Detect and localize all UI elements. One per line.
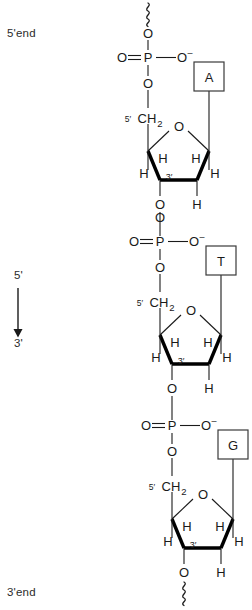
atom-o-5ester-2: O <box>155 210 165 225</box>
atom-ring-oxygen-1: O <box>174 119 184 134</box>
group-ch2-2: CH <box>150 295 169 310</box>
ring-bond-c4-o-3 <box>172 499 193 519</box>
atom-ring-oxygen-3: O <box>198 487 208 502</box>
atom-o-double-2: O <box>129 234 139 249</box>
group-ch2-1: CH <box>138 111 157 126</box>
atom-h-c2-upper-3: H <box>215 519 224 534</box>
dna-backbone-diagram: O O P O – O 5′ CH 2 O H H H H H 3′ O O O… <box>0 0 252 610</box>
base-box-adenine[interactable]: A <box>194 62 224 91</box>
atom-p-3: P <box>168 418 177 433</box>
subscript-ch2-3: 2 <box>181 486 186 497</box>
atom-h-c4-1: H <box>139 166 148 181</box>
ring-bond-c4-o-1 <box>148 131 169 151</box>
atom-h-c4-2: H <box>151 350 160 365</box>
atom-p-2: P <box>156 234 165 249</box>
charge-o-anion-3: – <box>211 416 216 426</box>
label-3-prime-end: 3'end <box>7 586 36 598</box>
atom-h-c2-lower-2: H <box>204 381 213 396</box>
base-letter-adenine: A <box>205 70 214 85</box>
label-c3prime-2: 3′ <box>178 356 185 366</box>
charge-o-anion-1: – <box>187 48 192 58</box>
direction-label-to: 3' <box>14 337 23 349</box>
atom-o-c3-2: O <box>167 381 177 396</box>
base-letter-thymine: T <box>217 254 225 269</box>
label-c3prime-1: 3′ <box>166 172 173 182</box>
atom-label-layer: O O P O – O 5′ CH 2 O H H H H H 3′ O O O… <box>117 26 244 580</box>
atom-h-c4-3: H <box>163 534 172 549</box>
direction-label-from: 5' <box>14 269 23 281</box>
atom-o-anion-2: O <box>189 234 199 249</box>
atom-h-c2-lower-3: H <box>216 565 225 580</box>
atom-h-c2-upper-2: H <box>203 335 212 350</box>
charge-o-anion-2: – <box>199 232 204 242</box>
ring-bond-o-c1-1 <box>188 131 209 151</box>
atom-o-anion-1: O <box>177 50 187 65</box>
atom-ring-oxygen-2: O <box>186 303 196 318</box>
label-c5prime-2: 5′ <box>137 298 144 308</box>
atom-p-1: P <box>144 50 153 65</box>
base-box-thymine[interactable]: T <box>206 246 236 275</box>
base-letter-guanine: G <box>228 438 238 453</box>
atom-o-3ester-2: O <box>155 260 165 275</box>
base-box-guanine[interactable]: G <box>218 430 248 459</box>
atom-h-c2-upper-1: H <box>191 151 200 166</box>
atom-h-c2-lower-1: H <box>192 197 201 212</box>
atom-h-c3-2: H <box>170 335 179 350</box>
structure-canvas: O O P O – O 5′ CH 2 O H H H H H 3′ O O O… <box>0 0 252 610</box>
atom-h-c1-3: H <box>234 534 243 549</box>
label-c5prime-3: 5′ <box>149 482 156 492</box>
atom-o-double-1: O <box>117 50 127 65</box>
atom-h-c1-2: H <box>222 350 231 365</box>
atom-o-5ester-1: O <box>143 26 153 41</box>
ring-bond-c4-o-2 <box>160 315 181 335</box>
subscript-ch2-2: 2 <box>169 302 174 313</box>
atom-o-double-3: O <box>141 418 151 433</box>
label-c3prime-3: 3′ <box>190 540 197 550</box>
ring-bond-o-c1-2 <box>200 315 221 335</box>
atom-o-anion-3: O <box>201 418 211 433</box>
subscript-ch2-1: 2 <box>157 118 162 129</box>
squiggle-bottom-icon <box>183 582 186 606</box>
label-5-prime-end: 5'end <box>7 27 36 39</box>
base-box-layer: A T G <box>194 62 248 459</box>
group-ch2-3: CH <box>162 479 181 494</box>
atom-h-c3-3: H <box>182 519 191 534</box>
ring-bond-o-c1-3 <box>212 499 233 519</box>
label-c5prime-1: 5′ <box>125 114 132 124</box>
atom-o-3ester-1: O <box>143 76 153 91</box>
atom-h-c1-1: H <box>210 166 219 181</box>
atom-h-c3-1: H <box>158 151 167 166</box>
squiggle-top-icon <box>147 3 150 27</box>
atom-o-c3-3: O <box>179 565 189 580</box>
atom-o-3ester-3: O <box>167 444 177 459</box>
